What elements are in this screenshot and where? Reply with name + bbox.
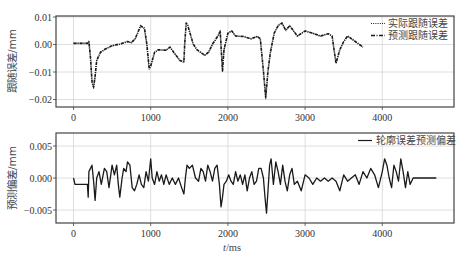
y-tick-label: −0.02 [29,94,52,105]
y-tick-label: −0.005 [24,205,52,216]
bottom-series [74,159,437,213]
top-y-axis-label: 跟随误差/mm [6,29,18,93]
x-tick-label: 3000 [295,112,315,123]
top-x-axis: 01000200030004000 [71,107,392,123]
series-line [74,159,437,213]
legend-actual-label: 实际跟随误差 [388,17,448,29]
bottom-x-axis-label: t/ms [223,242,241,253]
x-tick-label: 0 [71,228,76,239]
series-line [74,23,364,100]
x-tick-label: 3000 [295,228,315,239]
bottom-grid [56,133,454,223]
x-tick-label: 1000 [141,228,161,239]
x-tick-label: 0 [71,112,76,123]
legend-predicted-label: 预测跟随误差 [388,29,448,41]
y-tick-label: 0.005 [30,141,53,152]
top-series [74,23,364,100]
bottom-chart-panel: 01000200030004000 0.0050.000−0.005 预测偏差/… [6,133,456,253]
x-tick-label: 4000 [372,228,392,239]
x-tick-label: 4000 [372,112,392,123]
figure: 01000200030004000 0.010.00−0.01−0.02 跟随误… [0,0,463,260]
x-tick-label: 1000 [141,112,161,123]
bottom-x-axis: 01000200030004000 [71,223,392,239]
x-tick-label: 2000 [218,112,238,123]
top-y-axis: 0.010.00−0.01−0.02 [29,12,56,106]
y-tick-label: 0.000 [30,173,53,184]
legend-contour-deviation-label: 轮廓误差预测偏差 [376,134,456,146]
y-tick-label: −0.01 [29,67,52,78]
top-chart-panel: 01000200030004000 0.010.00−0.01−0.02 跟随误… [6,12,454,124]
bottom-y-axis: 0.0050.000−0.005 [24,141,56,216]
bottom-legend: 轮廓误差预测偏差 [358,134,456,146]
y-tick-label: 0.00 [35,39,53,50]
x-tick-label: 2000 [218,228,238,239]
bottom-y-axis-label: 预测偏差/mm [6,146,18,210]
y-tick-label: 0.01 [35,12,53,23]
